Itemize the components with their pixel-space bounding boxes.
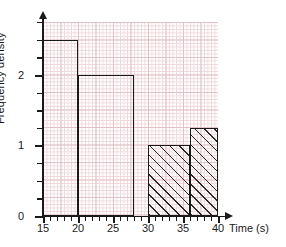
- x-tick: [190, 216, 191, 221]
- y-tick-label: 2: [18, 69, 24, 80]
- histogram-bar: [190, 128, 218, 216]
- y-tick: [37, 110, 43, 111]
- y-tick: [35, 216, 43, 218]
- x-tick-label: 40: [212, 223, 224, 234]
- x-tick: [127, 216, 128, 221]
- y-tick: [37, 93, 43, 94]
- y-tick: [37, 22, 43, 23]
- x-axis-title: Time (s): [229, 222, 269, 234]
- y-tick: [37, 40, 43, 41]
- y-tick: [37, 198, 43, 199]
- x-tick: [50, 216, 51, 221]
- x-tick: [204, 216, 205, 221]
- histogram-bar: [43, 40, 78, 216]
- histogram-chart: 012 152025303540 Frequency density Time …: [0, 0, 286, 247]
- x-tick: [64, 216, 65, 221]
- plot-area: [43, 22, 218, 216]
- y-axis-title: Frequency density: [0, 32, 6, 124]
- x-tick: [162, 216, 163, 221]
- x-tick-label: 30: [142, 223, 154, 234]
- y-tick: [35, 75, 43, 77]
- y-tick-label: 0: [18, 211, 24, 222]
- x-tick-label: 15: [37, 223, 49, 234]
- x-tick: [106, 216, 107, 221]
- x-tick: [176, 216, 177, 221]
- x-tick: [134, 216, 135, 221]
- y-axis-arrow-icon: [39, 11, 47, 19]
- x-tick: [197, 216, 198, 221]
- x-tick: [99, 216, 100, 221]
- x-axis-arrow-icon: [225, 212, 233, 220]
- histogram-bar: [148, 145, 190, 216]
- y-axis-line: [42, 18, 44, 217]
- x-tick: [92, 216, 93, 221]
- y-tick: [37, 128, 43, 129]
- y-tick-label: 1: [18, 140, 24, 151]
- y-tick: [35, 145, 43, 147]
- x-tick: [211, 216, 212, 221]
- y-tick: [37, 57, 43, 58]
- x-tick-label: 25: [107, 223, 119, 234]
- y-tick: [37, 181, 43, 182]
- histogram-bar: [78, 75, 134, 216]
- x-tick-label: 20: [72, 223, 84, 234]
- y-tick: [37, 163, 43, 164]
- x-tick: [85, 216, 86, 221]
- x-tick: [155, 216, 156, 221]
- x-tick: [141, 216, 142, 221]
- x-tick: [71, 216, 72, 221]
- x-tick: [169, 216, 170, 221]
- x-tick: [120, 216, 121, 221]
- x-tick-label: 35: [177, 223, 189, 234]
- x-tick: [57, 216, 58, 221]
